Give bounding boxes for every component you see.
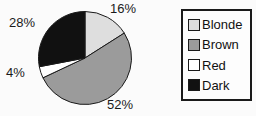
- legend-item-brown: Brown: [188, 38, 250, 51]
- slice-label-dark: 28%: [9, 16, 35, 29]
- legend-swatch-red: [188, 59, 200, 71]
- legend-item-red: Red: [188, 59, 250, 72]
- legend: Blonde Brown Red Dark: [181, 9, 252, 101]
- slice-label-brown: 52%: [107, 98, 133, 111]
- legend-label-brown: Brown: [202, 38, 239, 51]
- legend-swatch-dark: [188, 79, 200, 91]
- legend-label-dark: Dark: [202, 79, 229, 92]
- slice-label-red: 4%: [6, 66, 25, 79]
- pie-chart: 16% 52% 4% 28% Blonde Brown Red Dark: [0, 0, 256, 116]
- pie-svg: [37, 10, 133, 106]
- legend-swatch-blonde: [188, 19, 200, 31]
- legend-item-dark: Dark: [188, 79, 250, 92]
- legend-item-blonde: Blonde: [188, 18, 250, 31]
- pie-slice-dark: [38, 12, 85, 67]
- legend-label-red: Red: [202, 59, 226, 72]
- slice-label-blonde: 16%: [110, 2, 136, 15]
- legend-label-blonde: Blonde: [202, 18, 242, 31]
- legend-swatch-brown: [188, 39, 200, 51]
